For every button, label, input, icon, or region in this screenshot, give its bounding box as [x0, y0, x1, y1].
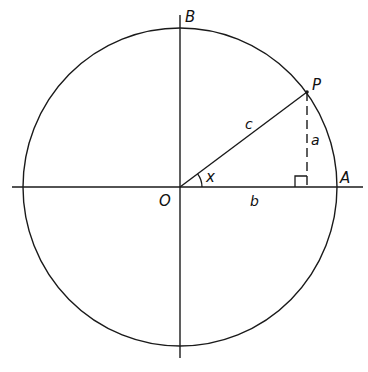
- point-p-dot: [305, 90, 309, 94]
- label-c: c: [245, 116, 253, 132]
- angle-arc: [198, 174, 202, 187]
- label-b-side: b: [250, 193, 259, 209]
- label-a-side: a: [311, 132, 320, 148]
- right-angle-marker: [295, 176, 307, 187]
- label-angle-x: x: [205, 168, 215, 186]
- label-p: P: [312, 76, 322, 94]
- label-b: B: [185, 8, 195, 26]
- label-o: O: [159, 192, 171, 210]
- unit-circle-diagram: B P A O c a b x: [0, 0, 368, 372]
- label-a: A: [339, 169, 350, 187]
- hypotenuse-c: [180, 92, 307, 187]
